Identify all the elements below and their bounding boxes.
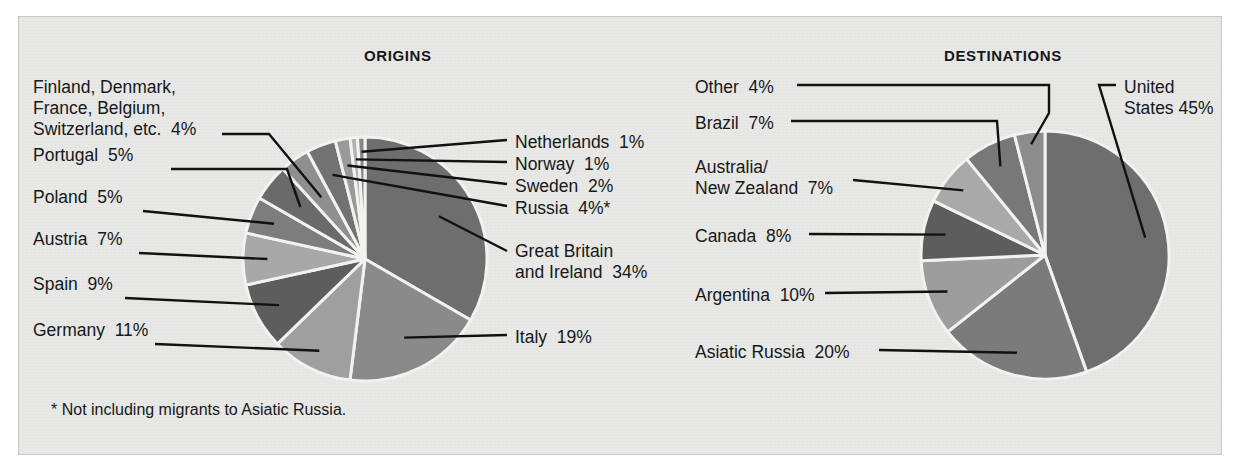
origins-label-russia: Russia 4%*: [515, 198, 610, 219]
destinations-label-australia-nz: Australia/New Zealand 7%: [695, 157, 833, 199]
origins-label-spain: Spain 9%: [33, 274, 113, 295]
origins-label-finland-group: Finland, Denmark,France, Belgium,Switzer…: [33, 77, 196, 140]
migration-pie-figure: ORIGINS DESTINATIONS Great Britain and I…: [0, 0, 1240, 476]
origins-label-netherlands: Netherlands 1%: [515, 132, 644, 153]
leader-line: [825, 291, 947, 293]
origins-label-germany: Germany 11%: [33, 320, 148, 341]
leader-line: [809, 234, 945, 235]
origins-label-great-britain: Great Britainand Ireland 34%: [515, 241, 647, 283]
destinations-label-canada: Canada 8%: [695, 226, 791, 247]
pie-charts-svg: Great Britain and Ireland 34%Italy 19%Ge…: [19, 17, 1222, 455]
origins-label-norway: Norway 1%: [515, 154, 609, 175]
origins-label-sweden: Sweden 2%: [515, 176, 613, 197]
destinations-label-brazil: Brazil 7%: [695, 113, 774, 134]
origins-label-austria: Austria 7%: [33, 229, 122, 250]
destinations-label-other: Other 4%: [695, 77, 774, 98]
footnote: * Not including migrants to Asiatic Russ…: [51, 401, 346, 419]
destinations-label-asiatic-russia: Asiatic Russia 20%: [695, 342, 850, 363]
origins-label-italy: Italy 19%: [515, 327, 592, 348]
destinations-label-united-states: UnitedStates 45%: [1124, 77, 1214, 119]
destinations-label-argentina: Argentina 10%: [695, 285, 815, 306]
origins-label-poland: Poland 5%: [33, 187, 123, 208]
origins-label-portugal: Portugal 5%: [33, 145, 133, 166]
destinations-pie: United States 45%Asiatic Russia 20%Argen…: [921, 131, 1169, 379]
figure-panel: ORIGINS DESTINATIONS Great Britain and I…: [18, 16, 1222, 455]
origins-pie: Great Britain and Ireland 34%Italy 19%Ge…: [243, 137, 487, 381]
